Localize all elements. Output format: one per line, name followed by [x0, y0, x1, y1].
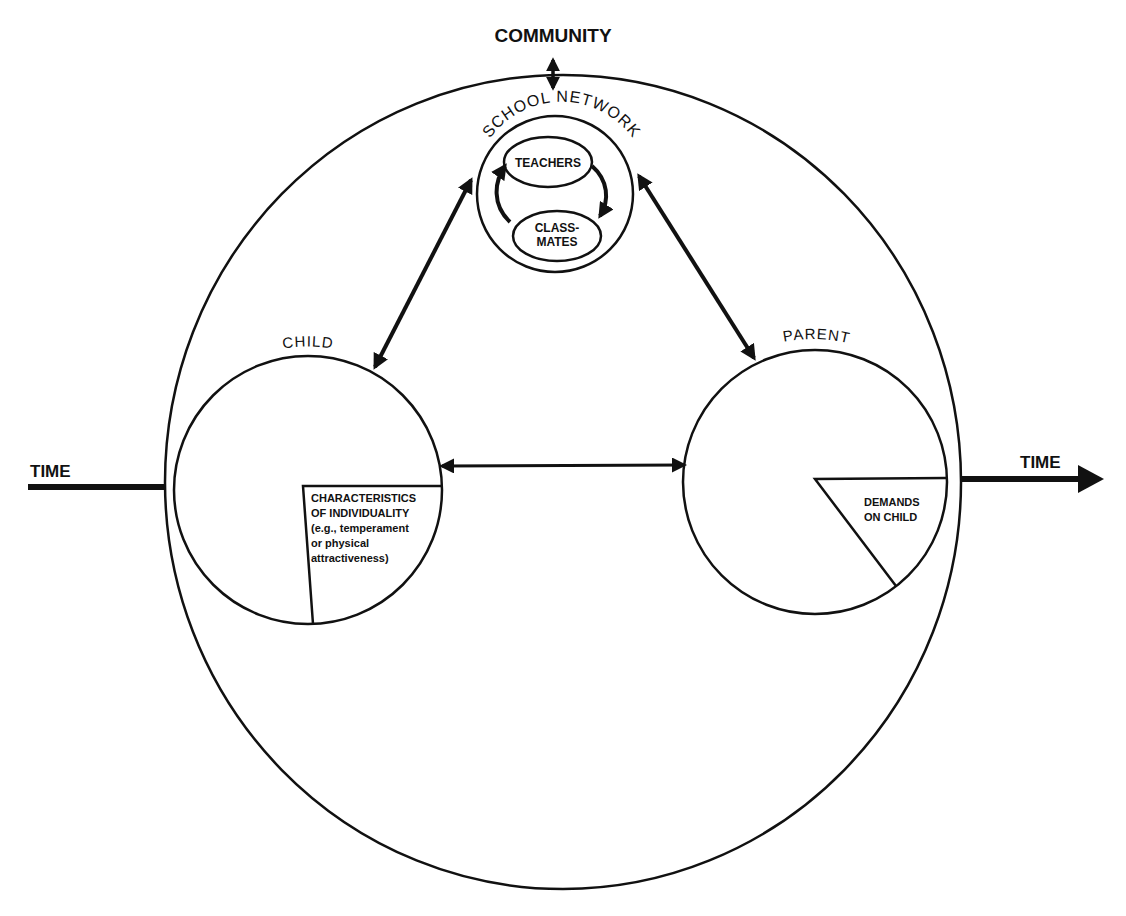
- child-characteristics-text: CHARACTERISTICS OF INDIVIDUALITY (e.g., …: [311, 492, 419, 564]
- parent-circle: [683, 350, 947, 614]
- parent-label: PARENT: [782, 325, 853, 346]
- school-parent-arrow: [639, 176, 754, 358]
- child-circle: [174, 356, 442, 624]
- child-label: CHILD: [281, 332, 334, 351]
- community-circle: [165, 75, 961, 889]
- time-right-label: TIME: [1020, 453, 1061, 472]
- parent-node: PARENT DEMANDS ON CHILD: [683, 325, 947, 614]
- time-arrowhead-icon: [1078, 465, 1104, 493]
- classmates-label-line2: MATES: [536, 235, 577, 249]
- school-network-label: SCHOOL NETWORK: [479, 88, 644, 141]
- time-left-label: TIME: [30, 462, 71, 481]
- child-node: CHILD CHARACTERISTICS OF INDIVIDUALITY (…: [174, 332, 442, 624]
- school-child-arrow: [375, 180, 471, 367]
- classmates-label-line1: CLASS-: [535, 221, 580, 235]
- school-network: SCHOOL NETWORK TEACHERS CLASS- MATES: [477, 88, 644, 272]
- child-parent-arrow: [442, 465, 684, 466]
- diagram-canvas: COMMUNITY TIME TIME SCHOOL NETWORK TEACH…: [0, 0, 1126, 916]
- parent-demands-text: DEMANDS ON CHILD: [864, 496, 923, 523]
- parent-demands-segment: [815, 478, 946, 586]
- teachers-to-classmates-arrow: [592, 166, 606, 216]
- community-label: COMMUNITY: [494, 25, 611, 46]
- teachers-label: TEACHERS: [515, 156, 581, 170]
